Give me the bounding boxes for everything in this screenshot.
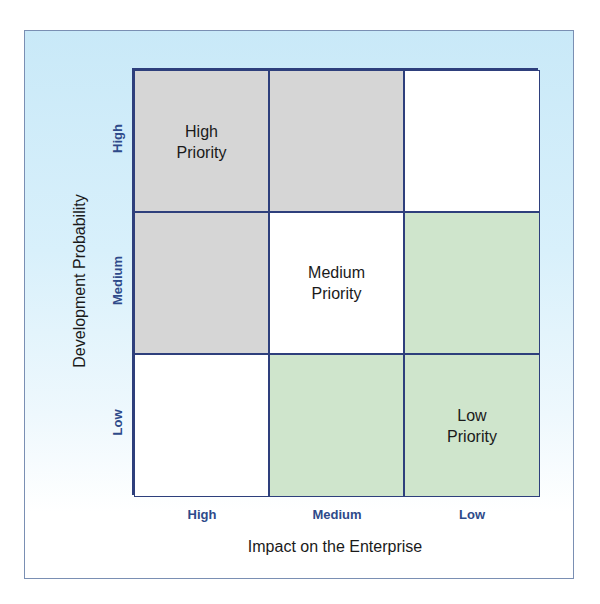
cell-high-low [404, 70, 540, 212]
cell-high-high: High Priority [134, 70, 269, 212]
cell-medium-low [404, 212, 540, 354]
high-priority-label: High Priority [177, 121, 227, 163]
x-tick-medium: Medium [277, 507, 397, 522]
y-axis-title: Development Probability [71, 181, 89, 381]
cell-low-medium [269, 354, 404, 497]
x-tick-low: Low [412, 507, 532, 522]
cell-high-medium [269, 70, 404, 212]
x-axis-title: Impact on the Enterprise [132, 538, 538, 556]
y-tick-medium: Medium [110, 241, 125, 321]
cell-medium-medium: Medium Priority [269, 212, 404, 354]
priority-matrix: High Priority Medium Priority Low Priori… [132, 68, 538, 495]
cell-low-low: Low Priority [404, 354, 540, 497]
low-priority-label: Low Priority [447, 405, 497, 447]
x-tick-high: High [142, 507, 262, 522]
cell-low-high [134, 354, 269, 497]
cell-medium-high [134, 212, 269, 354]
medium-priority-label: Medium Priority [308, 262, 365, 304]
y-tick-low: Low [110, 383, 125, 463]
y-tick-high: High [110, 99, 125, 179]
